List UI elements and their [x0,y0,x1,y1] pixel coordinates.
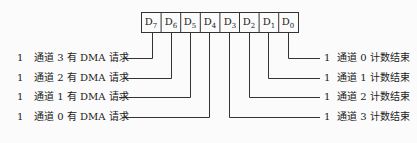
left-label-value: 1 [17,91,23,103]
left-label-value: 1 [17,72,23,84]
left-label-text: 通道 3 有 DMA 请求 [34,52,129,64]
left-label-value: 1 [17,52,23,64]
right-label-value: 1 [324,111,330,123]
bit-cell-d1: D1 [259,12,279,32]
bit-cell-d3: D3 [220,12,240,32]
left-label-text: 通道 1 有 DMA 请求 [34,91,129,103]
bit-cell-d6: D6 [161,12,181,32]
right-label-text: 通道 1 计数结束 [337,72,410,84]
right-label-text: 通道 3 计数结束 [337,111,410,123]
dma-status-register-diagram: D7 D6 D5 D4 D3 D2 D1 D0 1 通道 3 有 DMA 请求 … [0,0,417,143]
right-label-value: 1 [324,72,330,84]
right-label-value: 1 [324,52,330,64]
left-label-value: 1 [17,111,23,123]
left-label-text: 通道 2 有 DMA 请求 [34,72,129,84]
right-label-text: 通道 2 计数结束 [337,91,410,103]
left-label-text: 通道 0 有 DMA 请求 [34,111,129,123]
right-label-text: 通道 0 计数结束 [337,52,410,64]
bit-cell-d0: D0 [278,12,298,32]
bit-cell-d4: D4 [200,12,220,32]
bit-cell-d2: D2 [239,12,259,32]
bit-cell-d5: D5 [180,12,200,32]
right-label-value: 1 [324,91,330,103]
bit-cell-d7: D7 [141,12,161,32]
